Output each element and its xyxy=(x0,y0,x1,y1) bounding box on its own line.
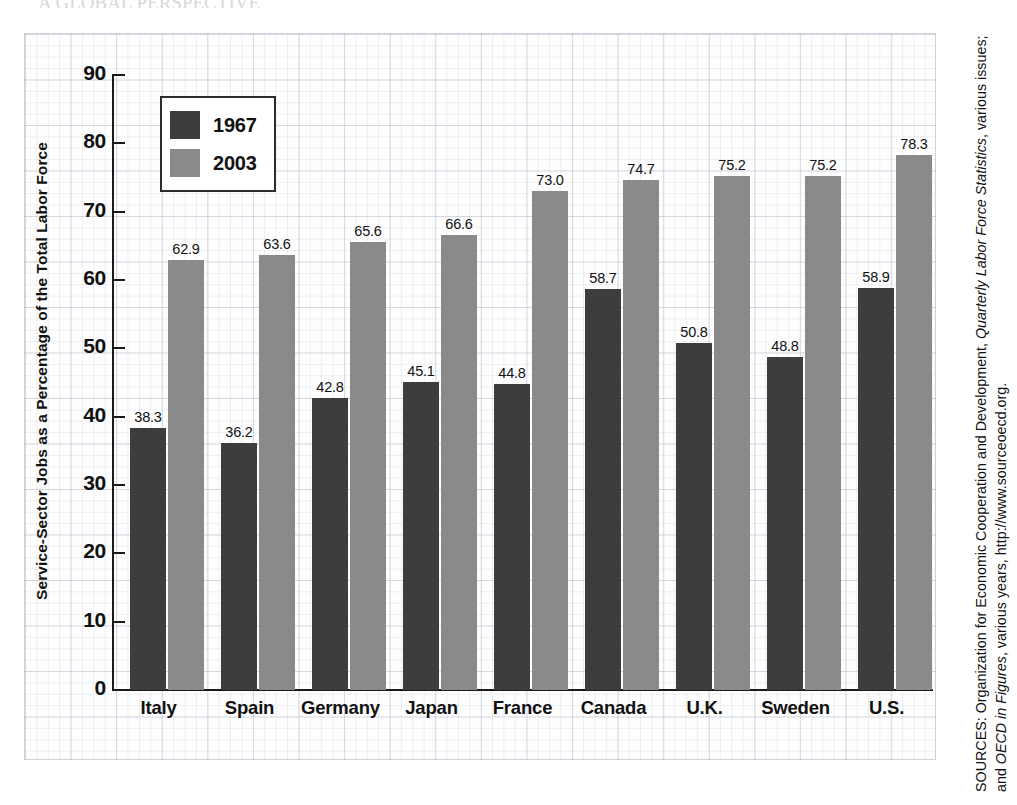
bar-group-u-k: 50.875.2 xyxy=(676,75,750,690)
bar-value-label: 45.1 xyxy=(407,363,434,379)
bar-1967-japan: 45.1 xyxy=(403,382,439,690)
x-axis-label-sweden: Sweden xyxy=(750,697,841,719)
y-axis-tick-80 xyxy=(114,142,125,144)
bar-group-u-s: 58.978.3 xyxy=(858,75,932,690)
y-axis-tick-label-90: 90 xyxy=(60,61,106,85)
y-axis-tick-label-60: 60 xyxy=(60,266,106,290)
bar-value-label: 75.2 xyxy=(809,157,836,173)
x-axis-category-labels: ItalySpainGermanyJapanFranceCanadaU.K.Sw… xyxy=(113,697,932,727)
bar-value-label: 78.3 xyxy=(900,136,927,152)
bar-value-label: 44.8 xyxy=(498,365,525,381)
bar-value-label: 66.6 xyxy=(445,216,472,232)
chart-legend: 1967 2003 xyxy=(160,96,276,192)
legend-swatch-1967 xyxy=(170,111,200,139)
bar-value-label: 65.6 xyxy=(354,223,381,239)
bar-2003-canada: 74.7 xyxy=(623,180,659,690)
bar-2003-u-k: 75.2 xyxy=(714,176,750,690)
bar-value-label: 36.2 xyxy=(225,424,252,440)
source-suffix: , various years, http://www.sourceoecd.o… xyxy=(993,383,1009,656)
source-note-text: SOURCES: Organization for Economic Coope… xyxy=(971,12,1011,792)
chart-page: A GLOBAL PERSPECTIVE 9080706050403020100… xyxy=(0,0,1017,805)
y-axis-tick-90 xyxy=(114,74,125,76)
bar-fill xyxy=(532,191,568,690)
bar-1967-sweden: 48.8 xyxy=(767,357,803,690)
legend-item-1967: 1967 xyxy=(170,106,274,144)
bar-fill xyxy=(767,357,803,690)
bar-fill xyxy=(585,289,621,690)
legend-label-1967: 1967 xyxy=(213,114,257,137)
bar-1967-italy: 38.3 xyxy=(130,428,166,690)
x-axis-label-germany: Germany xyxy=(295,697,386,719)
bar-value-label: 38.3 xyxy=(134,409,161,425)
y-axis-tick-70 xyxy=(114,211,125,213)
source-prefix: SOURCES: Organization for Economic Coope… xyxy=(973,339,989,792)
bar-value-label: 50.8 xyxy=(680,324,707,340)
bar-fill xyxy=(312,398,348,690)
bar-value-label: 74.7 xyxy=(627,161,654,177)
bar-value-label: 58.9 xyxy=(862,269,889,285)
bar-fill xyxy=(259,255,295,690)
bar-2003-italy: 62.9 xyxy=(168,260,204,690)
y-axis-tick-20 xyxy=(114,552,125,554)
bar-fill xyxy=(858,288,894,690)
y-axis-tick-label-0: 0 xyxy=(60,676,106,700)
bar-fill xyxy=(676,343,712,690)
y-axis-tick-30 xyxy=(114,484,125,486)
bar-value-label: 58.7 xyxy=(589,270,616,286)
bar-1967-canada: 58.7 xyxy=(585,289,621,690)
y-axis-tick-label-10: 10 xyxy=(60,608,106,632)
y-axis-tick-label-80: 80 xyxy=(60,129,106,153)
bar-value-label: 75.2 xyxy=(718,157,745,173)
bar-group-france: 44.873.0 xyxy=(494,75,568,690)
bar-group-sweden: 48.875.2 xyxy=(767,75,841,690)
x-axis-label-spain: Spain xyxy=(204,697,295,719)
bar-1967-germany: 42.8 xyxy=(312,398,348,690)
bar-2003-france: 73.0 xyxy=(532,191,568,690)
bar-fill xyxy=(221,443,257,690)
x-axis-label-japan: Japan xyxy=(386,697,477,719)
bar-2003-u-s: 78.3 xyxy=(896,155,932,690)
bar-2003-germany: 65.6 xyxy=(350,242,386,690)
legend-swatch-2003 xyxy=(170,149,200,177)
y-axis-tick-60 xyxy=(114,279,125,281)
bar-fill xyxy=(350,242,386,690)
y-axis-tick-label-70: 70 xyxy=(60,198,106,222)
y-axis-tick-10 xyxy=(114,621,125,623)
x-axis-label-canada: Canada xyxy=(568,697,659,719)
y-axis-tick-labels: 9080706050403020100 xyxy=(50,0,106,805)
y-axis-tick-label-50: 50 xyxy=(60,334,106,358)
bar-fill xyxy=(494,384,530,690)
bar-fill xyxy=(130,428,166,690)
bar-1967-u-k: 50.8 xyxy=(676,343,712,690)
y-axis-tick-label-20: 20 xyxy=(60,539,106,563)
source-italic-title-1: Quarterly Labor Force Statistics xyxy=(973,138,989,339)
y-axis-tick-40 xyxy=(114,416,125,418)
bar-fill xyxy=(896,155,932,690)
x-axis-label-italy: Italy xyxy=(113,697,204,719)
bar-1967-u-s: 58.9 xyxy=(858,288,894,690)
bar-value-label: 42.8 xyxy=(316,379,343,395)
bar-fill xyxy=(441,235,477,690)
bar-fill xyxy=(805,176,841,690)
bar-2003-japan: 66.6 xyxy=(441,235,477,690)
x-axis-label-france: France xyxy=(477,697,568,719)
bar-2003-sweden: 75.2 xyxy=(805,176,841,690)
y-axis-tick-label-40: 40 xyxy=(60,403,106,427)
legend-item-2003: 2003 xyxy=(170,144,274,182)
source-note: SOURCES: Organization for Economic Coope… xyxy=(953,0,1015,805)
bar-value-label: 48.8 xyxy=(771,338,798,354)
bar-1967-spain: 36.2 xyxy=(221,443,257,690)
bar-1967-france: 44.8 xyxy=(494,384,530,690)
legend-label-2003: 2003 xyxy=(213,152,257,175)
y-axis-tick-0 xyxy=(114,689,125,691)
bar-value-label: 62.9 xyxy=(172,241,199,257)
bar-fill xyxy=(168,260,204,690)
bar-group-canada: 58.774.7 xyxy=(585,75,659,690)
bar-2003-spain: 63.6 xyxy=(259,255,295,690)
bar-fill xyxy=(623,180,659,690)
y-axis-title: Service-Sector Jobs as a Percentage of t… xyxy=(33,91,51,651)
x-axis-label-u-k: U.K. xyxy=(659,697,750,719)
bar-fill xyxy=(403,382,439,690)
bar-fill xyxy=(714,176,750,690)
bar-value-label: 73.0 xyxy=(536,172,563,188)
